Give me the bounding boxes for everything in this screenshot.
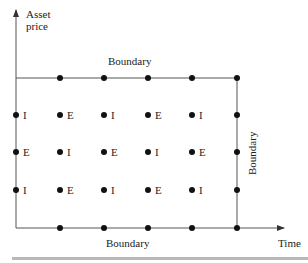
right-boundary-label: Boundary [246,131,258,175]
bottom-divider [12,257,308,260]
boundary-point [101,75,107,81]
implicit-label: I [111,109,115,121]
grid-point [13,112,19,118]
grid-point [189,112,195,118]
finite-difference-grid-diagram: Asset price Boundary Boundary Boundary T… [0,0,308,263]
boundary-point [57,75,63,81]
boundary-point [234,149,240,155]
grid-point [13,187,19,193]
explicit-label: E [67,184,74,196]
explicit-label: E [155,184,162,196]
explicit-label: E [111,146,118,158]
explicit-label: E [199,146,206,158]
implicit-label: I [67,146,71,158]
grid-point [145,149,151,155]
grid-point [101,149,107,155]
boundary-point [234,75,240,81]
implicit-label: I [155,146,159,158]
grid-point [101,187,107,193]
y-axis-label: Asset [26,8,50,20]
boundary-point [234,112,240,118]
x-axis-label: Time [278,237,301,249]
implicit-label: I [199,109,203,121]
grid-point [101,112,107,118]
grid-point [57,112,63,118]
implicit-label: I [199,184,203,196]
top-boundary-label: Boundary [108,55,152,67]
grid-point [13,149,19,155]
grid-points [13,75,240,231]
implicit-label: I [23,184,27,196]
grid-point [57,149,63,155]
grid-point-labels: IEIEIEIEIEIEIEI [23,109,206,196]
grid-point [189,187,195,193]
grid-point [189,149,195,155]
boundary-point [189,75,195,81]
boundary-point [234,225,240,231]
grid-point [145,112,151,118]
boundary-point [145,225,151,231]
y-axis-label-2: price [26,20,48,32]
grid-point [57,187,63,193]
boundary-point [234,187,240,193]
explicit-label: E [155,109,162,121]
explicit-label: E [23,146,30,158]
explicit-label: E [67,109,74,121]
boundary-point [101,225,107,231]
boundary-point [145,75,151,81]
bottom-boundary-label: Boundary [106,237,150,249]
implicit-label: I [111,184,115,196]
boundary-point [57,225,63,231]
implicit-label: I [23,109,27,121]
boundary-point [189,225,195,231]
grid-point [145,187,151,193]
